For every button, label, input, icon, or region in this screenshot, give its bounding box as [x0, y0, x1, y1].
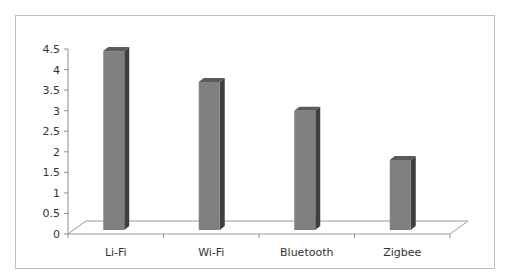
- y-tick-label: 3: [53, 105, 60, 118]
- y-tick-label: 4: [53, 64, 60, 77]
- y-tick-label: 4.5: [43, 43, 61, 56]
- y-tick-label: 2.5: [43, 125, 61, 138]
- x-tick-label: Bluetooth: [280, 246, 333, 259]
- bar-zigbee: [390, 156, 416, 230]
- y-tick-label: 2: [53, 146, 60, 159]
- y-tick-label: 0.5: [43, 207, 61, 220]
- bar-bluetooth: [294, 107, 320, 230]
- y-tick-label: 3.5: [43, 84, 61, 97]
- y-tick-label: 1.5: [43, 166, 61, 179]
- y-axis: 00.511.522.533.544.5: [43, 43, 69, 241]
- y-tick-label: 0: [53, 228, 60, 241]
- x-tick-label: Zigbee: [383, 246, 421, 259]
- bar-wifi: [199, 78, 225, 230]
- x-tick-label: Li-Fi: [105, 246, 127, 259]
- y-tick-label: 1: [53, 187, 60, 200]
- bar-lifi: [103, 47, 129, 230]
- bar-chart: 00.511.522.533.544.5Li-FiWi-FiBluetoothZ…: [0, 0, 510, 277]
- x-tick-label: Wi-Fi: [198, 246, 224, 259]
